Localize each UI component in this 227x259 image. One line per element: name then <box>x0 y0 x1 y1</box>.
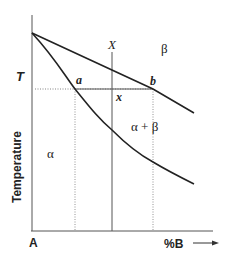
temperature-marker: T <box>16 69 25 84</box>
point-label-b: b <box>150 74 156 88</box>
composition-label: X <box>107 37 117 52</box>
region-label-solid: α <box>47 146 54 161</box>
phase-diagram: X β a b x α + β α T Temperature A %B <box>0 0 227 259</box>
origin-label: A <box>29 236 38 250</box>
point-label-x: x <box>115 90 122 104</box>
x-axis-label: %B <box>164 237 184 251</box>
region-label-liquid: β <box>161 41 168 56</box>
y-axis-label: Temperature <box>10 131 24 203</box>
solidus-curve <box>32 33 194 184</box>
region-label-two-phase: α + β <box>131 119 159 134</box>
arrow-right-icon <box>193 241 219 246</box>
point-label-a: a <box>76 73 82 87</box>
